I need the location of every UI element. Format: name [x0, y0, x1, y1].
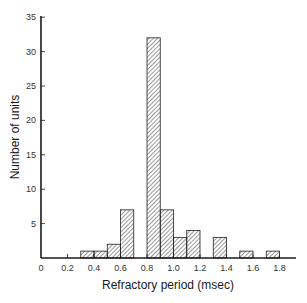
- y-tick-label: 5: [31, 219, 36, 229]
- x-tick-label: 1.6: [247, 263, 260, 273]
- x-tick-label: 1.4: [220, 263, 233, 273]
- x-tick-label: 1.8: [273, 263, 286, 273]
- y-tick-label: 15: [26, 150, 36, 160]
- y-axis-ticks: 5101520253035: [26, 12, 45, 228]
- x-tick-label: 0: [38, 263, 43, 273]
- histogram-bar: [266, 251, 279, 258]
- histogram-bar: [94, 251, 107, 258]
- histogram-bar: [240, 251, 253, 258]
- y-tick-label: 20: [26, 115, 36, 125]
- y-tick-label: 10: [26, 184, 36, 194]
- histogram-bars: [81, 38, 280, 258]
- histogram-bar: [147, 38, 160, 258]
- x-axis-label: Refractory period (msec): [102, 278, 234, 292]
- x-tick-label: 0.2: [61, 263, 74, 273]
- y-axis-label: Number of units: [8, 95, 22, 180]
- histogram-chart: 5101520253035 00.20.40.60.81.01.21.41.61…: [0, 0, 307, 303]
- y-tick-label: 25: [26, 81, 36, 91]
- x-tick-label: 1.0: [167, 263, 180, 273]
- x-tick-label: 0.8: [141, 263, 154, 273]
- histogram-bar: [160, 210, 173, 258]
- x-tick-label: 0.4: [88, 263, 101, 273]
- histogram-bar: [187, 230, 200, 258]
- histogram-bar: [213, 237, 226, 258]
- histogram-bar: [174, 237, 187, 258]
- x-tick-label: 0.6: [114, 263, 127, 273]
- histogram-bar: [121, 210, 134, 258]
- y-tick-label: 35: [26, 12, 36, 22]
- histogram-bar: [81, 251, 94, 258]
- x-tick-label: 1.2: [194, 263, 207, 273]
- histogram-bar: [107, 244, 120, 258]
- y-tick-label: 30: [26, 47, 36, 57]
